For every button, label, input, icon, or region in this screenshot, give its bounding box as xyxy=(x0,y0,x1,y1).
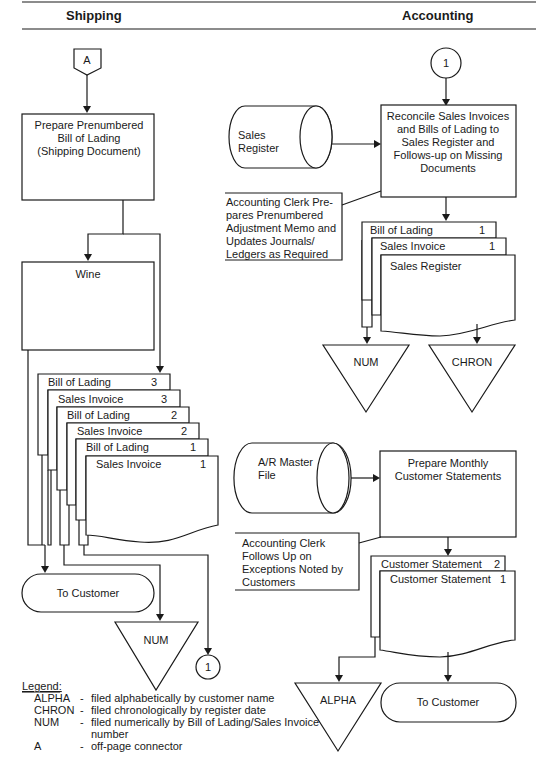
svg-text:A: A xyxy=(83,54,91,66)
svg-text:Sales Invoice: Sales Invoice xyxy=(77,425,142,437)
annotation-adjustment-memo: Accounting Clerk Pre- pares Prenumbered … xyxy=(225,191,381,260)
column-header-accounting: Accounting xyxy=(402,8,474,23)
svg-text:ALPHA: ALPHA xyxy=(34,692,71,704)
svg-text:Updates Journals/: Updates Journals/ xyxy=(226,235,316,247)
svg-text:Bill of Lading: Bill of Lading xyxy=(86,441,149,453)
svg-text:Bill of Lading: Bill of Lading xyxy=(67,409,130,421)
file-chron: CHRON xyxy=(429,345,515,412)
offpage-connector-a: A xyxy=(74,49,101,75)
process-prepare-bill-of-lading: Prepare Prenumbered Bill of Lading (Ship… xyxy=(22,114,154,200)
onpage-connector-1-shipping: 1 xyxy=(196,655,220,679)
shipping-document-stack: Bill of Lading 3 Sales Invoice 3 Bill of… xyxy=(38,374,218,542)
arrowhead xyxy=(156,614,164,621)
svg-text:Ledgers as Required: Ledgers as Required xyxy=(226,248,328,260)
svg-text:NUM: NUM xyxy=(34,716,59,728)
arrowhead xyxy=(363,337,371,344)
annotation-exceptions: Accounting Clerk Follows Up on Exception… xyxy=(235,533,381,590)
svg-text:3: 3 xyxy=(161,393,167,405)
svg-text:Accounting Clerk: Accounting Clerk xyxy=(242,537,326,549)
svg-text:filed chronologically by regis: filed chronologically by register date xyxy=(91,704,266,716)
svg-text:and Bills of Lading to: and Bills of Lading to xyxy=(397,123,499,135)
svg-text:A/R Master: A/R Master xyxy=(258,456,313,468)
svg-text:Prepare Prenumbered: Prepare Prenumbered xyxy=(35,119,144,131)
svg-text:number: number xyxy=(91,728,129,740)
file-ar-master: A/R Master File xyxy=(234,443,351,513)
svg-text:To Customer: To Customer xyxy=(57,587,120,599)
file-num-shipping: NUM xyxy=(115,622,198,690)
svg-text:Exceptions Noted by: Exceptions Noted by xyxy=(242,563,343,575)
svg-text:3: 3 xyxy=(151,376,157,388)
svg-text:Customer Statements: Customer Statements xyxy=(395,470,502,482)
file-num-accounting: NUM xyxy=(323,345,409,412)
legend-title: Legend: xyxy=(22,680,62,692)
arrowhead xyxy=(374,140,381,148)
svg-text:CHRON: CHRON xyxy=(34,704,74,716)
onpage-connector-1-accounting: 1 xyxy=(431,48,461,78)
process-prepare-statements: Prepare Monthly Customer Statements xyxy=(380,451,516,537)
flowchart-diagram: Shipping Accounting A Prepare Prenumbere… xyxy=(0,0,536,773)
svg-text:Sales Invoice: Sales Invoice xyxy=(380,240,445,252)
svg-text:Sales Invoice: Sales Invoice xyxy=(96,458,161,470)
svg-text:Follows-up on Missing: Follows-up on Missing xyxy=(394,149,503,161)
svg-text:1: 1 xyxy=(489,240,495,252)
process-wine: Wine xyxy=(22,262,154,350)
arrowhead xyxy=(204,648,212,655)
svg-text:Documents: Documents xyxy=(420,162,476,174)
svg-text:off-page connector: off-page connector xyxy=(91,740,183,752)
svg-text:Accounting Clerk Pre-: Accounting Clerk Pre- xyxy=(226,196,333,208)
arrowhead xyxy=(444,675,452,682)
flow-line xyxy=(339,637,375,675)
svg-text:Customers: Customers xyxy=(242,576,296,588)
svg-text:Sales Register and: Sales Register and xyxy=(402,136,495,148)
svg-text:Customer Statement: Customer Statement xyxy=(390,573,491,585)
terminal-to-customer-shipping: To Customer xyxy=(22,574,154,612)
svg-text:Adjustment Memo and: Adjustment Memo and xyxy=(226,222,336,234)
svg-text:1: 1 xyxy=(500,573,506,585)
svg-text:1: 1 xyxy=(479,224,485,236)
arrowhead xyxy=(373,474,380,482)
svg-text:Sales: Sales xyxy=(238,129,266,141)
svg-text:NUM: NUM xyxy=(143,634,168,646)
svg-text:NUM: NUM xyxy=(353,356,378,368)
svg-text:To Customer: To Customer xyxy=(417,696,480,708)
svg-text:A: A xyxy=(34,740,42,752)
svg-text:(Shipping Document): (Shipping Document) xyxy=(37,145,140,157)
svg-text:ALPHA: ALPHA xyxy=(320,694,357,706)
svg-text:Sales Invoice: Sales Invoice xyxy=(58,393,123,405)
svg-text:2: 2 xyxy=(494,558,500,570)
accounting-document-stack: Bill of Lading 1 Sales Invoice 1 Sales R… xyxy=(362,222,515,336)
svg-text:2: 2 xyxy=(171,409,177,421)
svg-text:Reconcile Sales Invoices: Reconcile Sales Invoices xyxy=(387,110,510,122)
svg-text:1: 1 xyxy=(200,458,206,470)
flow-line xyxy=(48,470,51,545)
svg-text:Bill of Lading: Bill of Lading xyxy=(58,132,121,144)
arrowhead xyxy=(473,337,481,344)
svg-text:Wine: Wine xyxy=(75,268,100,280)
svg-text:-: - xyxy=(80,692,84,704)
customer-statement-stack: Customer Statement 2 Customer Statement … xyxy=(371,556,515,657)
arrowhead xyxy=(335,675,343,682)
arrowhead xyxy=(83,106,91,113)
svg-text:-: - xyxy=(80,716,84,728)
file-sales-register: Sales Register xyxy=(229,106,332,168)
svg-text:2: 2 xyxy=(181,425,187,437)
column-header-shipping: Shipping xyxy=(66,8,122,23)
svg-text:Customer Statement: Customer Statement xyxy=(381,558,482,570)
svg-text:Bill of Lading: Bill of Lading xyxy=(48,376,111,388)
svg-text:Register: Register xyxy=(238,142,279,154)
arrowhead xyxy=(444,549,452,556)
arrowhead xyxy=(442,214,450,221)
svg-text:File: File xyxy=(258,469,276,481)
svg-text:Prepare Monthly: Prepare Monthly xyxy=(408,457,489,469)
flow-line xyxy=(88,200,123,254)
svg-text:Bill of Lading: Bill of Lading xyxy=(370,224,433,236)
arrowhead xyxy=(84,254,92,261)
svg-text:filed numerically by Bill of L: filed numerically by Bill of Lading/Sale… xyxy=(91,716,319,728)
arrowhead xyxy=(156,366,164,373)
svg-text:filed alphabetically by custom: filed alphabetically by customer name xyxy=(91,692,274,704)
svg-text:-: - xyxy=(80,740,84,752)
svg-text:pares Prenumbered: pares Prenumbered xyxy=(226,209,323,221)
arrowhead xyxy=(41,566,49,573)
svg-text:1: 1 xyxy=(443,57,449,69)
svg-text:-: - xyxy=(80,704,84,716)
